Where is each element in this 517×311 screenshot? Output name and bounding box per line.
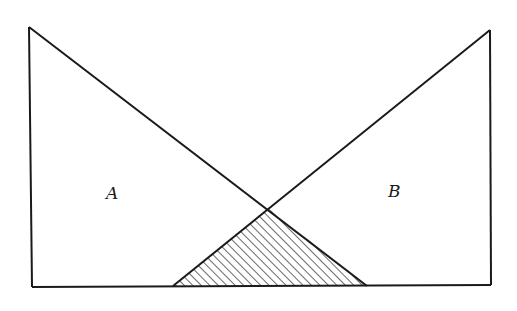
triangle-b-hypotenuse [173, 30, 490, 286]
common-baseline [32, 285, 491, 287]
overlap-region-hatched [173, 208, 367, 286]
triangle-a-hypotenuse [29, 27, 367, 286]
triangle-a-vertical-side [29, 27, 32, 287]
label-a: A [106, 185, 118, 202]
overlapping-triangles-diagram [0, 0, 517, 311]
label-b: B [388, 183, 401, 200]
triangle-b-vertical-side [490, 30, 491, 285]
